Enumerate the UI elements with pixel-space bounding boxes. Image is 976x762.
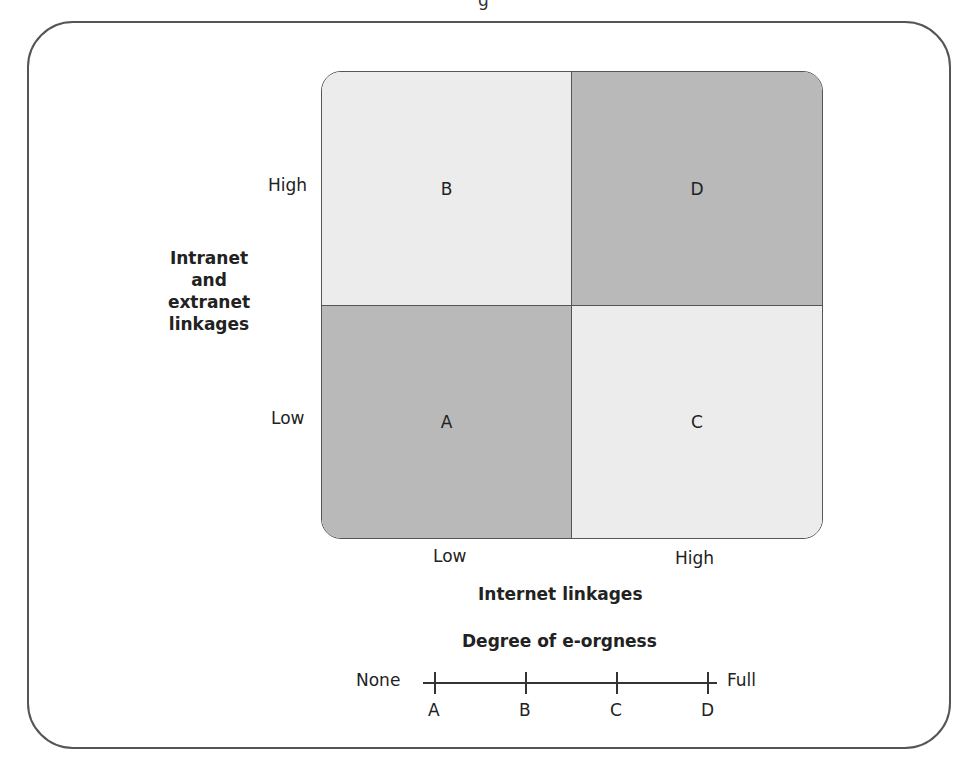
scale-tick-a [434,672,436,694]
scale-tick-c [616,672,618,694]
scale-tick-b [525,672,527,694]
y-axis-title-line: extranet [140,291,278,313]
y-axis-title-line: linkages [140,313,278,335]
quadrant-b-label: B [441,179,453,199]
quadrant-a: A [322,306,572,538]
quadrant-d-label: D [690,179,703,199]
scale-point-c: C [610,700,622,720]
y-axis-title-line: Intranet [140,247,278,269]
y-axis-title-line: and [140,269,278,291]
scale-right-label: Full [727,670,756,690]
quadrant-c-label: C [691,412,703,432]
cropped-title-fragment: g [478,0,489,10]
scale-tick-d [707,672,709,694]
x-tick-low: Low [433,546,466,566]
quadrant-c: C [572,306,822,538]
scale-point-b: B [519,700,531,720]
quadrant-a-label: A [441,412,453,432]
scale-axis-line [423,682,717,684]
x-tick-high: High [675,548,714,568]
scale-left-label: None [356,670,400,690]
scale-point-d: D [701,700,714,720]
y-tick-low: Low [271,408,304,428]
quadrant-b: B [322,72,572,306]
scale-point-a: A [428,700,440,720]
quadrant-d: D [572,72,822,306]
y-tick-high: High [268,175,307,195]
scale-title: Degree of e-orgness [462,631,657,651]
y-axis-title: Intranet and extranet linkages [140,247,278,335]
x-axis-title: Internet linkages [478,584,643,604]
quadrant-matrix: B D A C [321,71,823,539]
